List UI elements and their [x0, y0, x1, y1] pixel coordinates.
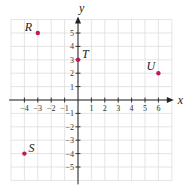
x-tick-label: 6 — [156, 104, 160, 113]
data-point-r — [36, 31, 40, 35]
y-axis-arrow-icon — [75, 17, 81, 24]
x-tick-label: 3 — [116, 104, 120, 113]
y-tick-label: 5 — [70, 29, 74, 38]
y-tick-label: 3 — [70, 56, 74, 65]
coordinate-plane: x y −4−3−2−112345654321−1−2−3−4−5 RTUS — [0, 0, 189, 192]
data-point-u — [156, 71, 160, 75]
y-axis-label: y — [78, 1, 85, 15]
y-tick-label: 1 — [70, 83, 74, 92]
x-tick-label: 5 — [143, 104, 147, 113]
point-label-s: S — [28, 141, 34, 155]
y-tick-label: −4 — [65, 150, 74, 159]
x-tick-label: 4 — [130, 104, 134, 113]
y-tick-label: −1 — [65, 109, 74, 118]
axes: x y — [9, 1, 184, 184]
x-tick-label: 1 — [89, 104, 93, 113]
x-axis-label: x — [177, 93, 184, 107]
y-tick-label: −2 — [65, 123, 74, 132]
x-tick-label: −4 — [20, 104, 29, 113]
y-tick-label: 2 — [70, 69, 74, 78]
data-point-t — [76, 58, 80, 62]
y-tick-label: 4 — [70, 42, 74, 51]
point-label-r: R — [24, 20, 33, 34]
y-tick-label: −5 — [65, 163, 74, 172]
x-tick-label: −3 — [34, 104, 43, 113]
x-axis-arrow-icon — [167, 97, 174, 103]
y-tick-label: −3 — [65, 136, 74, 145]
x-tick-label: 2 — [103, 104, 107, 113]
point-label-t: T — [82, 47, 90, 61]
point-label-u: U — [146, 59, 156, 73]
x-tick-label: −2 — [47, 104, 56, 113]
data-point-s — [22, 151, 26, 155]
